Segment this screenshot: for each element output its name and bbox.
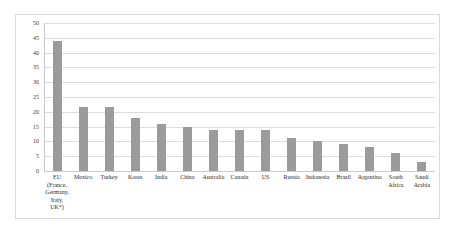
x-axis-tick: Canada <box>226 174 252 182</box>
x-axis-tick-line: Mexico <box>70 174 96 182</box>
x-axis-tick: EU(France,Germany,Italy,UK*) <box>44 174 70 212</box>
x-axis-tick-line: Germany, <box>44 189 70 197</box>
x-axis-tick-line: Canada <box>226 174 252 182</box>
x-axis-tick-line: India <box>148 174 174 182</box>
x-axis-tick-line: EU <box>44 174 70 182</box>
y-axis-tick: 35 <box>33 64 39 70</box>
x-axis-tick-line: China <box>174 174 200 182</box>
x-axis-tick-labels: EU(France,Germany,Italy,UK*)MexicoTurkey… <box>44 174 435 212</box>
bar[interactable] <box>105 107 114 171</box>
bar[interactable] <box>235 130 244 171</box>
bar-slot <box>279 23 305 171</box>
x-axis-tick-line: UK*) <box>44 204 70 212</box>
x-axis-tick: Australia <box>200 174 226 182</box>
bar[interactable] <box>313 141 322 171</box>
bar-slot <box>305 23 331 171</box>
bar[interactable] <box>391 153 400 171</box>
x-axis-tick: China <box>174 174 200 182</box>
x-axis-tick: Korea <box>122 174 148 182</box>
y-axis-tick: 10 <box>33 138 39 144</box>
y-axis-tick: 50 <box>33 20 39 26</box>
bar-slot <box>253 23 279 171</box>
bars-group <box>44 23 435 171</box>
x-axis-tick-line: Italy, <box>44 197 70 205</box>
bar[interactable] <box>209 130 218 171</box>
bar-slot <box>357 23 383 171</box>
bar-slot <box>96 23 122 171</box>
axis-baseline <box>44 171 435 172</box>
bar[interactable] <box>365 147 374 171</box>
bar-slot <box>44 23 70 171</box>
bar[interactable] <box>157 124 166 171</box>
bar-slot <box>331 23 357 171</box>
x-axis-tick-line: Russia <box>279 174 305 182</box>
x-axis-tick-line: Australia <box>200 174 226 182</box>
x-axis-tick: India <box>148 174 174 182</box>
x-axis-tick: Argentina <box>357 174 383 182</box>
x-axis-tick-line: (France, <box>44 182 70 190</box>
x-axis-tick: Turkey <box>96 174 122 182</box>
y-axis-tick: 45 <box>33 35 39 41</box>
plot-area: 05101520253035404550 EU(France,Germany,I… <box>16 15 439 218</box>
y-axis-tick-labels: 05101520253035404550 <box>16 23 42 171</box>
bar[interactable] <box>79 107 88 171</box>
y-axis-tick: 25 <box>33 94 39 100</box>
x-axis-tick-line: Korea <box>122 174 148 182</box>
y-axis-tick: 15 <box>33 124 39 130</box>
x-axis-tick: US <box>253 174 279 182</box>
y-axis-tick: 5 <box>36 153 39 159</box>
y-axis-tick: 0 <box>36 168 39 174</box>
bar[interactable] <box>287 138 296 171</box>
bar-slot <box>148 23 174 171</box>
bar[interactable] <box>339 144 348 171</box>
bar-slot <box>174 23 200 171</box>
x-axis-tick-line: Brazil <box>331 174 357 182</box>
bar[interactable] <box>183 127 192 171</box>
y-axis-tick: 30 <box>33 79 39 85</box>
y-axis-tick: 20 <box>33 109 39 115</box>
x-axis-tick-line: Argentina <box>357 174 383 182</box>
x-axis-tick-line: Turkey <box>96 174 122 182</box>
bar[interactable] <box>417 162 426 171</box>
x-axis-tick-line: Saudi <box>409 174 435 182</box>
x-axis-tick: SouthAfrica <box>383 174 409 189</box>
x-axis-tick-line: Africa <box>383 182 409 190</box>
bar[interactable] <box>131 118 140 171</box>
x-axis-tick: Brazil <box>331 174 357 182</box>
x-axis-tick: Mexico <box>70 174 96 182</box>
bar-slot <box>409 23 435 171</box>
bar[interactable] <box>53 41 62 171</box>
bar-slot <box>226 23 252 171</box>
bar[interactable] <box>261 130 270 171</box>
x-axis-tick-line: Arabia <box>409 182 435 190</box>
y-axis-tick: 40 <box>33 50 39 56</box>
x-axis-tick-line: US <box>253 174 279 182</box>
x-axis-tick: Russia <box>279 174 305 182</box>
x-axis-tick-line: Indonesia <box>305 174 331 182</box>
bar-slot <box>200 23 226 171</box>
bar-slot <box>70 23 96 171</box>
bar-slot <box>122 23 148 171</box>
bar-chart-card: 05101520253035404550 EU(France,Germany,I… <box>15 14 440 219</box>
x-axis-tick: SaudiArabia <box>409 174 435 189</box>
x-axis-tick-line: South <box>383 174 409 182</box>
x-axis-tick: Indonesia <box>305 174 331 182</box>
bar-slot <box>383 23 409 171</box>
